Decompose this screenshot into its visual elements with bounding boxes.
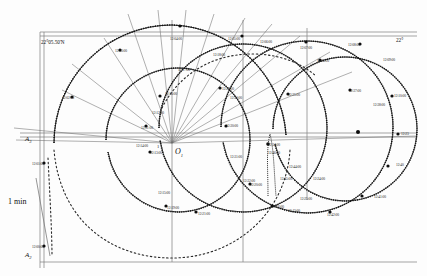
time-label: 12:40	[396, 164, 404, 168]
time-label: 12:46:00	[268, 152, 280, 156]
time-label: 12:10:00	[394, 95, 406, 99]
axis-label-a3: A3	[25, 136, 32, 145]
time-label: 12:23	[401, 133, 409, 137]
time-label: 12:36:00	[317, 60, 329, 64]
time-label: 12:11:00	[141, 127, 153, 131]
time-label: 12:41:00	[374, 196, 386, 200]
time-label: 12:21:00	[198, 213, 210, 217]
time-label: 12:13:00	[150, 152, 162, 156]
plot-frame	[20, 32, 417, 268]
time-label: 12:38:00	[373, 104, 385, 108]
time-label: 12:32:00	[243, 180, 255, 184]
time-label: 12:01:00	[32, 163, 44, 167]
time-label: 12:30:00	[226, 125, 238, 129]
figure-canvas: 22°05.50'N 22° A3 A2 1 min O1 1 12:00:00…	[0, 0, 427, 276]
time-label: 12:02:00	[62, 97, 74, 101]
origin-label: O1	[175, 148, 183, 158]
time-label: 12:05:00	[228, 38, 240, 42]
time-label: 12:00:00	[32, 246, 44, 250]
time-label: 12:20:00	[250, 184, 262, 188]
time-label: 12:35:00	[288, 94, 300, 98]
time-label: 12:43:00	[288, 210, 300, 214]
time-label: 12:33:00	[230, 97, 242, 101]
time-label: 12:17:00	[178, 69, 190, 73]
time-label: 12:31:00	[230, 156, 242, 160]
coord-label-top-right: 22°	[396, 38, 403, 43]
axis-label-a2: A2	[25, 252, 32, 261]
time-label: 12:24:00	[313, 178, 325, 182]
time-label: 12:25:00	[300, 198, 312, 202]
time-label: 12:07:00	[300, 47, 312, 51]
time-label: 12:03:00	[115, 50, 127, 54]
time-label: 12:37:00	[349, 90, 361, 94]
time-label: 12:42:00	[327, 214, 339, 218]
arc-far-right	[273, 57, 417, 201]
time-label: 12:16:00	[165, 93, 177, 97]
time-label: 12:18:00	[213, 54, 225, 58]
time-label: 12:12:00	[152, 112, 164, 116]
time-label: 12:04:00	[170, 38, 182, 42]
time-label: 12:44:00	[289, 166, 301, 170]
time-label: 12:34:00	[268, 144, 280, 148]
time-label: 12:08:00	[348, 44, 360, 48]
dotted-tail	[48, 158, 52, 256]
time-label: 12:26:00	[272, 206, 284, 210]
time-label: 12:45:00	[280, 178, 292, 182]
time-label: 12:19:00	[167, 207, 179, 211]
time-label: 12:06:00	[260, 41, 272, 45]
scale-label-1min: 1 min	[8, 198, 26, 206]
time-label: 12:15:00	[158, 192, 170, 196]
coord-label-top-left: 22°05.50'N	[41, 40, 65, 45]
time-label: 12:09:00	[383, 59, 395, 63]
time-label: 12:22:00	[222, 88, 234, 92]
tick-label-one: 1	[157, 145, 159, 150]
time-label: 12:14:00	[136, 145, 148, 149]
trajectory-arcs	[54, 25, 417, 213]
